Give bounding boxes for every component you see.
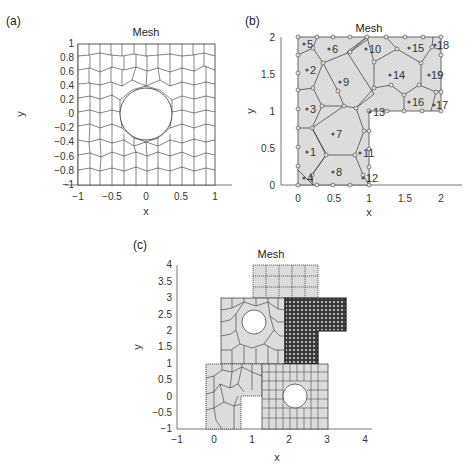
svg-text:19: 19 <box>431 69 443 81</box>
svg-text:2: 2 <box>310 64 316 76</box>
svg-text:15: 15 <box>412 42 424 54</box>
x-ticks-b: 0 0.5 1 1.5 2 <box>295 193 444 204</box>
svg-text:3: 3 <box>324 434 330 445</box>
svg-text:1.5: 1.5 <box>261 69 275 80</box>
svg-text:0: 0 <box>143 191 149 202</box>
svg-text:2: 2 <box>269 32 275 43</box>
svg-text:1.5: 1.5 <box>158 341 172 352</box>
svg-text:−0.2: −0.2 <box>54 122 74 133</box>
svg-text:0: 0 <box>269 180 275 191</box>
svg-text:0: 0 <box>211 434 217 445</box>
y-axis-label-a: y <box>14 111 26 117</box>
svg-text:12: 12 <box>366 172 378 184</box>
svg-text:1.5: 1.5 <box>398 193 412 204</box>
panel-a: Mesh <box>14 26 232 217</box>
panel-b: Mesh <box>244 22 462 218</box>
svg-text:4: 4 <box>166 259 172 270</box>
y-ticks-a: 1 0.8 0.6 0.4 0.2 0 −0.2 −0.4 −0.6 −0.8 … <box>54 38 74 190</box>
patch-triangular-l-shape <box>285 298 346 364</box>
x-axis-label-a: x <box>143 205 149 217</box>
svg-text:7: 7 <box>336 128 342 140</box>
svg-text:5: 5 <box>307 38 313 50</box>
svg-text:−0.4: −0.4 <box>54 136 74 147</box>
figure-canvas: Mesh <box>0 0 476 470</box>
svg-text:2: 2 <box>166 325 172 336</box>
svg-text:8: 8 <box>336 166 342 178</box>
svg-text:−1: −1 <box>63 179 75 190</box>
svg-text:1: 1 <box>166 358 172 369</box>
svg-text:2.5: 2.5 <box>158 309 172 320</box>
svg-text:0.2: 0.2 <box>60 94 74 105</box>
patch-l-shaped-polygonal <box>206 364 262 429</box>
svg-text:0.4: 0.4 <box>60 80 74 91</box>
y-axis-label-c: y <box>131 344 143 350</box>
svg-text:0.8: 0.8 <box>60 52 74 63</box>
svg-text:1: 1 <box>366 193 372 204</box>
svg-text:0: 0 <box>166 391 172 402</box>
svg-text:−0.6: −0.6 <box>54 151 74 162</box>
svg-text:−0.5: −0.5 <box>102 191 122 202</box>
y-axis-label-b: y <box>244 108 256 114</box>
y-ticks-c: 4 3.5 3 2.5 2 1.5 1 0.5 0 −0.5 −1 <box>152 259 172 434</box>
svg-text:−0.8: −0.8 <box>54 165 74 176</box>
svg-text:0: 0 <box>295 193 301 204</box>
svg-text:9: 9 <box>343 76 349 88</box>
patch-square-with-hole <box>262 364 328 429</box>
svg-text:13: 13 <box>373 106 385 118</box>
svg-text:0: 0 <box>68 108 74 119</box>
svg-text:3.5: 3.5 <box>158 276 172 287</box>
svg-text:3: 3 <box>166 292 172 303</box>
x-axis-label-b: x <box>366 206 372 218</box>
svg-text:0.5: 0.5 <box>327 193 341 204</box>
svg-text:1: 1 <box>249 434 255 445</box>
panel-b-title: Mesh <box>356 22 383 34</box>
svg-text:3: 3 <box>310 103 316 115</box>
svg-text:11: 11 <box>363 147 374 159</box>
svg-text:0.5: 0.5 <box>158 374 172 385</box>
svg-text:14: 14 <box>393 69 405 81</box>
svg-text:1: 1 <box>269 106 275 117</box>
panel-c-title: Mesh <box>258 248 285 260</box>
svg-text:4: 4 <box>362 434 368 445</box>
svg-text:−0.5: −0.5 <box>152 407 172 418</box>
panel-c: Mesh 4 3.5 3 2. <box>131 248 372 463</box>
svg-text:17: 17 <box>436 99 448 111</box>
x-ticks-a: −1 −0.5 0 0.5 1 <box>72 191 218 202</box>
svg-text:0.6: 0.6 <box>60 66 74 77</box>
svg-text:16: 16 <box>412 96 424 108</box>
x-ticks-c: −1 0 1 2 3 4 <box>171 434 368 445</box>
svg-text:4: 4 <box>307 172 313 184</box>
y-ticks-b: 2 1.5 1 0.5 0 <box>261 32 275 191</box>
patch-quad-grid <box>253 265 318 298</box>
svg-text:18: 18 <box>437 39 449 51</box>
svg-text:2: 2 <box>286 434 292 445</box>
svg-text:0.5: 0.5 <box>174 191 188 202</box>
svg-text:2: 2 <box>438 193 444 204</box>
svg-text:1: 1 <box>68 38 74 49</box>
svg-text:−1: −1 <box>161 423 173 434</box>
svg-text:6: 6 <box>332 43 338 55</box>
patch-polygonal-with-hole <box>221 298 285 364</box>
x-axis-label-c: x <box>274 451 280 463</box>
svg-text:1: 1 <box>212 191 218 202</box>
svg-text:0.5: 0.5 <box>261 143 275 154</box>
panel-a-title: Mesh <box>133 26 160 38</box>
svg-text:−1: −1 <box>171 434 183 445</box>
svg-text:1: 1 <box>310 146 316 158</box>
svg-text:−1: −1 <box>72 191 84 202</box>
hole-a <box>120 88 172 140</box>
svg-text:10: 10 <box>369 43 381 55</box>
